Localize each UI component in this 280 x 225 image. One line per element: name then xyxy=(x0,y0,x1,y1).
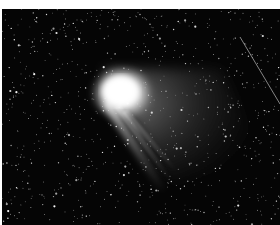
comet-image-svg xyxy=(2,9,280,225)
comet-photo-frame: Comet with bright coma and fanned dust a… xyxy=(0,0,280,225)
comet-photograph: Comet with bright coma and fanned dust a… xyxy=(2,9,280,225)
